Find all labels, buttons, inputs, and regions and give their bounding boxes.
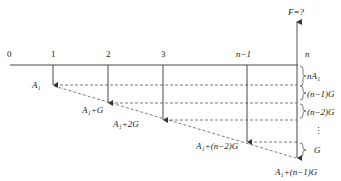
period-label-1: 1 xyxy=(51,49,56,59)
period-label-n: n xyxy=(305,49,310,59)
dashed-guides xyxy=(54,85,297,158)
cash-flow-label-n-minus-1: A₁+(n−2)G xyxy=(195,141,239,151)
cash-flow-diagram: 0 1 2 3 n−1 n F=? A₁ A₁+G A₁+2G A₁+(n−2)… xyxy=(0,0,341,181)
brace-label-ellipsis: ⋮ xyxy=(314,126,323,136)
period-label-n-minus-1: n−1 xyxy=(236,49,251,59)
braces xyxy=(300,66,306,157)
cash-flow-label-n: A₁+(n−1)G xyxy=(274,167,318,177)
brace-label-G: G xyxy=(314,145,321,155)
period-label-2: 2 xyxy=(106,49,111,59)
brace-label-n-minus-2-G: (n−2)G xyxy=(307,107,335,117)
cash-flow-label-3: A₁+2G xyxy=(112,119,139,129)
cash-flow-label-2: A₁+G xyxy=(81,105,104,115)
period-label-0: 0 xyxy=(7,49,12,59)
period-label-3: 3 xyxy=(161,49,166,59)
future-value-label: F=? xyxy=(287,7,305,17)
cash-flow-label-1: A₁ xyxy=(31,80,41,90)
brace-label-nA1: nA₁ xyxy=(307,71,320,81)
brace-label-n-minus-1-G: (n−1)G xyxy=(307,89,335,99)
